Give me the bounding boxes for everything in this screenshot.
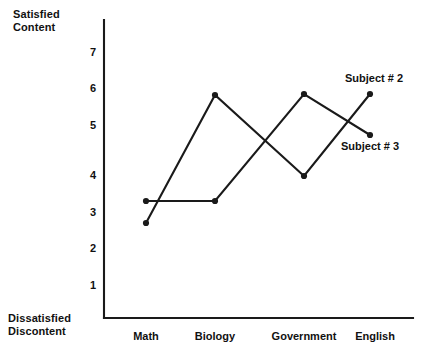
data-point-subject-3-math xyxy=(143,198,149,204)
data-point-subject-3-government xyxy=(301,91,307,97)
data-point-subject-3-biology xyxy=(212,198,218,204)
series-subject-3 xyxy=(143,91,373,204)
plot-area xyxy=(0,0,422,359)
series-subject-3-line xyxy=(146,94,370,201)
data-point-subject-3-english xyxy=(367,132,373,138)
data-point-subject-2-biology xyxy=(212,92,218,98)
data-point-subject-2-government xyxy=(301,173,307,179)
series-subject-2 xyxy=(143,91,373,226)
data-point-subject-2-english xyxy=(367,91,373,97)
line-chart: SatisfiedContent DissatisfiedDiscontent … xyxy=(0,0,422,359)
data-point-subject-2-math xyxy=(143,220,149,226)
